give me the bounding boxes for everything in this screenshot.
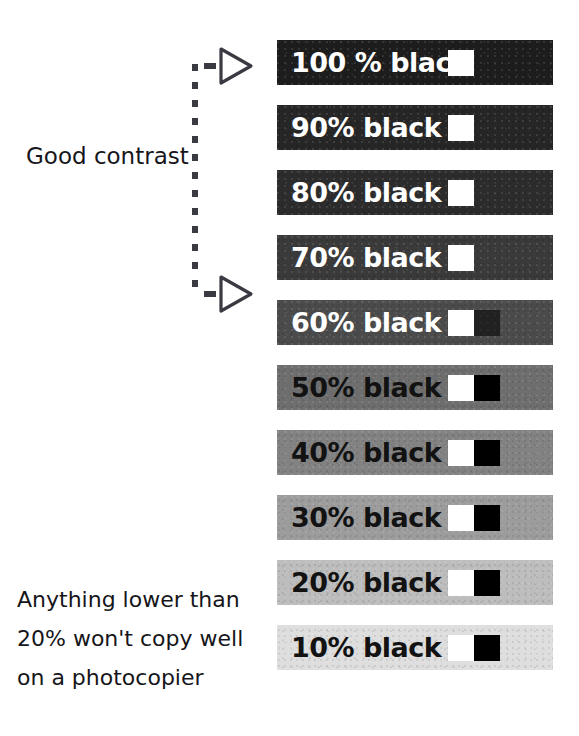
swatch-label: 80% black xyxy=(291,178,441,205)
black-reference-chip xyxy=(474,440,500,466)
swatch-column: 100 % black90% black80% black70% black60… xyxy=(277,40,553,690)
good-contrast-label: Good contrast xyxy=(26,143,189,169)
contrast-chip-pair xyxy=(448,505,500,531)
white-reference-chip xyxy=(448,50,474,76)
white-reference-chip xyxy=(448,180,474,206)
black-reference-chip xyxy=(474,570,500,596)
good-contrast-bracket xyxy=(178,38,258,318)
white-reference-chip xyxy=(448,245,474,271)
swatch-row: 80% black xyxy=(277,170,553,215)
swatch-row: 40% black xyxy=(277,430,553,475)
white-reference-chip xyxy=(448,115,474,141)
black-reference-chip xyxy=(474,310,500,336)
swatch-row: 100 % black xyxy=(277,40,553,85)
swatch-label: 40% black xyxy=(291,438,441,465)
swatch-row: 30% black xyxy=(277,495,553,540)
swatch-label: 100 % black xyxy=(291,48,468,75)
contrast-chip-pair xyxy=(448,375,500,401)
warning-line-1: Anything lower than xyxy=(17,580,243,619)
swatch-row: 60% black xyxy=(277,300,553,345)
triangle-right-icon xyxy=(221,277,251,311)
white-reference-chip xyxy=(448,310,474,336)
swatch-row: 50% black xyxy=(277,365,553,410)
contrast-chip-pair xyxy=(448,310,500,336)
white-reference-chip xyxy=(448,570,474,596)
white-reference-chip xyxy=(448,505,474,531)
swatch-label: 30% black xyxy=(291,503,441,530)
contrast-chip-pair xyxy=(448,440,500,466)
triangle-right-icon xyxy=(221,49,251,83)
swatch-label: 20% black xyxy=(291,568,441,595)
swatch-row: 20% black xyxy=(277,560,553,605)
contrast-chip-pair xyxy=(448,115,500,141)
swatch-label: 50% black xyxy=(291,373,441,400)
contrast-chip-pair xyxy=(448,245,500,271)
black-reference-chip xyxy=(474,375,500,401)
contrast-chip-pair xyxy=(448,50,500,76)
swatch-label: 70% black xyxy=(291,243,441,270)
swatch-row: 10% black xyxy=(277,625,553,670)
white-reference-chip xyxy=(448,635,474,661)
warning-line-2: 20% won't copy well xyxy=(17,619,243,658)
black-reference-chip xyxy=(474,505,500,531)
white-reference-chip xyxy=(448,440,474,466)
contrast-chip-pair xyxy=(448,180,500,206)
white-reference-chip xyxy=(448,375,474,401)
swatch-row: 90% black xyxy=(277,105,553,150)
contrast-chip-pair xyxy=(448,635,500,661)
photocopy-warning-note: Anything lower than 20% won't copy well … xyxy=(17,580,243,697)
figure-canvas: Good contrast Anything lower than 20% wo… xyxy=(0,0,579,736)
warning-line-3: on a photocopier xyxy=(17,658,243,697)
swatch-label: 60% black xyxy=(291,308,441,335)
swatch-label: 10% black xyxy=(291,633,441,660)
black-reference-chip xyxy=(474,635,500,661)
swatch-label: 90% black xyxy=(291,113,441,140)
swatch-row: 70% black xyxy=(277,235,553,280)
contrast-chip-pair xyxy=(448,570,500,596)
